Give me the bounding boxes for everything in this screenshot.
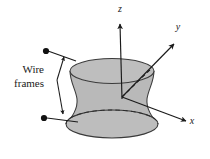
- bracket-lower-arm: [57, 80, 63, 114]
- y-axis-label: y: [175, 21, 181, 32]
- wire-frames-callout: Wire frames: [14, 48, 78, 122]
- hyperboloid-figure: z y x Wire frames: [0, 0, 210, 159]
- top-rim-ellipse: [70, 59, 154, 84]
- figure-canvas: z y x Wire frames: [0, 0, 210, 159]
- bracket-upper-arm: [57, 57, 64, 80]
- upper-wire-frame-dot: [43, 48, 49, 54]
- wire-frames-label-line1: Wire: [22, 63, 44, 75]
- upper-leader-line: [48, 51, 76, 61]
- z-axis-label: z: [117, 3, 122, 14]
- wire-frames-label-line2: frames: [14, 77, 44, 89]
- x-axis-label: x: [189, 115, 195, 126]
- lower-wire-frame-dot: [41, 115, 47, 121]
- hyperboloid-surface: [66, 59, 158, 139]
